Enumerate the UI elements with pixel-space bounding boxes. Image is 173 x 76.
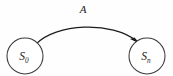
node-start-state: S0: [7, 38, 43, 74]
node-end-state: Sn: [129, 38, 165, 74]
state-transition-diagram: A S0 Sn: [0, 0, 173, 76]
end-state-subscript: n: [147, 57, 151, 65]
start-state-subscript: 0: [25, 57, 29, 65]
edge-arc-path: [36, 27, 137, 44]
edge-label-a: A: [79, 3, 87, 15]
edge-transition-a: [36, 27, 140, 44]
diagram-canvas: A S0 Sn: [0, 0, 173, 76]
